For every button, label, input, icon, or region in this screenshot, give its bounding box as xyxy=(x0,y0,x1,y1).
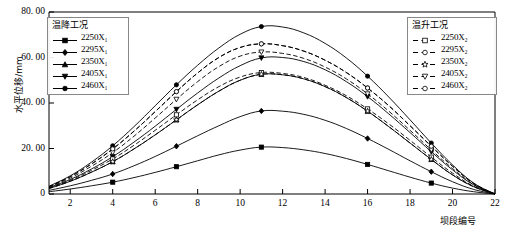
marker-diamond xyxy=(429,169,434,174)
chart-container: 水平位移/mm 坝段编号 020. 0040. 0060. 0080. 0024… xyxy=(0,0,510,236)
legend-item-label: 2350X₁ xyxy=(81,56,107,66)
x-tick-label: 12 xyxy=(273,198,293,208)
legend-title-right: 温升工况 xyxy=(412,20,492,31)
legend-swatch xyxy=(52,68,78,79)
x-tick-label: 6 xyxy=(145,198,165,208)
legend-item: 2295X₂ xyxy=(412,43,492,55)
marker-circle xyxy=(174,90,178,94)
legend-item: 2250X₁ xyxy=(52,31,124,43)
marker-circle xyxy=(111,147,115,151)
legend-item: 2295X₁ xyxy=(52,43,124,55)
legend-item: 2250X₂ xyxy=(412,31,492,43)
marker-diamond xyxy=(62,49,67,55)
y-tick-label: 80. 00 xyxy=(0,6,45,16)
legend-item: 2460X₂ xyxy=(412,79,492,91)
legend-item-label: 2405X₂ xyxy=(441,68,467,78)
x-tick-label: 10 xyxy=(230,198,250,208)
marker-diamond xyxy=(365,136,370,141)
y-tick-label: 40. 00 xyxy=(0,97,45,107)
legend-temperature-drop: 温降工况 2250X₁2295X₁2350X₁2405X₁2460X₁ xyxy=(47,17,129,95)
legend-title-left: 温降工况 xyxy=(52,20,124,31)
legend-swatch xyxy=(52,56,78,67)
legend-left-rows: 2250X₁2295X₁2350X₁2405X₁2460X₁ xyxy=(52,31,124,91)
legend-swatch xyxy=(412,44,438,55)
x-tick-label: 16 xyxy=(358,198,378,208)
marker-circle xyxy=(423,86,428,91)
legend-item-label: 2295X₂ xyxy=(441,44,467,54)
marker-circle xyxy=(429,144,433,148)
legend-sample-icon xyxy=(52,83,78,94)
legend-swatch xyxy=(412,56,438,67)
marker-triangle-down xyxy=(174,97,179,102)
x-axis-title: 坝段编号 xyxy=(440,214,476,227)
marker-circle xyxy=(423,50,428,55)
y-tick-label: 60. 00 xyxy=(0,52,45,62)
marker-square xyxy=(365,162,369,166)
marker-diamond xyxy=(259,108,264,113)
marker-square xyxy=(63,38,68,43)
legend-swatch xyxy=(412,32,438,43)
x-tick-label: 2 xyxy=(60,198,80,208)
marker-diamond xyxy=(110,171,115,176)
legend-item-label: 2460X₂ xyxy=(441,80,467,90)
marker-square xyxy=(111,180,115,184)
legend-item-label: 2460X₁ xyxy=(81,80,107,90)
legend-item-label: 2350X₂ xyxy=(441,56,467,66)
marker-circle xyxy=(174,83,178,87)
marker-circle xyxy=(259,42,263,46)
legend-swatch xyxy=(412,68,438,79)
x-tick-label: 20 xyxy=(443,198,463,208)
y-tick-label: 0 xyxy=(0,188,45,198)
marker-square xyxy=(259,145,263,149)
x-tick-label: 14 xyxy=(315,198,335,208)
legend-item: 2405X₂ xyxy=(412,67,492,79)
x-tick-label: 8 xyxy=(188,198,208,208)
legend-item-label: 2405X₁ xyxy=(81,68,107,78)
marker-circle xyxy=(365,86,369,90)
legend-swatch xyxy=(52,44,78,55)
legend-item-label: 2250X₂ xyxy=(441,32,467,42)
legend-swatch xyxy=(52,32,78,43)
legend-item: 2405X₁ xyxy=(52,67,124,79)
legend-item: 2350X₁ xyxy=(52,55,124,67)
x-tick-label: 22 xyxy=(485,198,505,208)
legend-item-label: 2250X₁ xyxy=(81,32,107,42)
marker-circle xyxy=(365,74,369,78)
x-tick-label: 18 xyxy=(400,198,420,208)
marker-star xyxy=(422,61,428,67)
legend-item: 2460X₁ xyxy=(52,79,124,91)
legend-swatch xyxy=(412,80,438,91)
marker-square xyxy=(174,165,178,169)
marker-square xyxy=(423,38,428,43)
legend-item-label: 2295X₁ xyxy=(81,44,107,54)
legend-right-rows: 2250X₂2295X₂2350X₂2405X₂2460X₂ xyxy=(412,31,492,91)
y-tick-label: 20. 00 xyxy=(0,143,45,153)
marker-circle xyxy=(63,86,68,91)
series-2250X₁ xyxy=(49,145,495,194)
x-tick-label: 4 xyxy=(103,198,123,208)
legend-sample-icon xyxy=(412,83,438,94)
marker-square xyxy=(429,181,433,185)
marker-circle xyxy=(259,24,263,28)
marker-diamond xyxy=(174,143,179,148)
legend-item: 2350X₂ xyxy=(412,55,492,67)
legend-swatch xyxy=(52,80,78,91)
legend-temperature-rise: 温升工况 2250X₂2295X₂2350X₂2405X₂2460X₂ xyxy=(407,17,497,95)
